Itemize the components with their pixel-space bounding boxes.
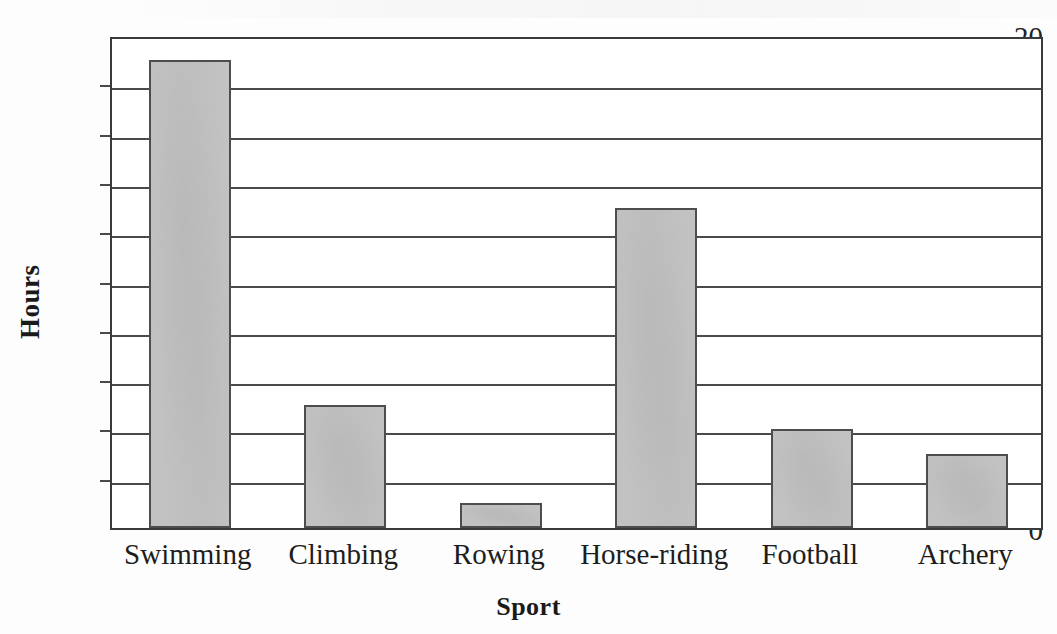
y-axis-tick-mark bbox=[100, 480, 110, 482]
x-axis-category-label: Rowing bbox=[421, 540, 577, 569]
y-axis-title: Hours bbox=[10, 232, 50, 372]
bar bbox=[304, 405, 386, 528]
y-axis-tick-mark bbox=[100, 184, 110, 186]
bar bbox=[615, 208, 697, 528]
bar bbox=[771, 429, 853, 528]
y-axis-tick-mark bbox=[100, 283, 110, 285]
x-axis-category-label: Football bbox=[732, 540, 888, 569]
x-axis-category-label: Horse-riding bbox=[577, 540, 733, 569]
bar bbox=[926, 454, 1008, 528]
x-axis-category-label: Swimming bbox=[110, 540, 266, 569]
x-axis-category-label: Archery bbox=[888, 540, 1044, 569]
bar bbox=[149, 60, 231, 528]
y-axis-tick-mark bbox=[100, 85, 110, 87]
plot-area bbox=[110, 37, 1043, 530]
y-axis-tick-mark bbox=[100, 332, 110, 334]
bar-chart: Hours 20181614121086420 SwimmingClimbing… bbox=[0, 0, 1057, 634]
bar-series bbox=[112, 39, 1041, 528]
y-axis-tick-mark bbox=[100, 233, 110, 235]
x-axis-category-label: Climbing bbox=[266, 540, 422, 569]
y-axis-tick-mark bbox=[100, 430, 110, 432]
bar bbox=[460, 503, 542, 528]
scan-noise-artifact bbox=[0, 0, 1057, 18]
y-axis-tick-mark bbox=[100, 381, 110, 383]
y-axis-tick-mark bbox=[100, 135, 110, 137]
x-axis-title: Sport bbox=[0, 592, 1057, 622]
